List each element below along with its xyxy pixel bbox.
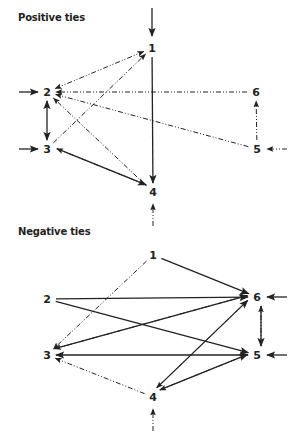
positive-node-6: 6 [252,86,260,99]
tie-network-diagram: 123456 123456 [0,0,305,447]
positive-node-2: 2 [43,86,51,99]
negative-node-4: 4 [149,391,157,404]
negative-edge-4-3 [55,358,144,393]
positive-edge-4-2 [54,98,147,186]
positive-node-4: 4 [149,186,157,199]
positive-edge-2-1 [55,51,143,88]
negative-node-2: 2 [43,293,51,306]
negative-node-3: 3 [43,349,51,362]
positive-node-3: 3 [43,143,51,156]
negative-edge-1-6 [161,258,248,293]
positive-ties-graph: 123456 [19,8,287,226]
negative-edge-2-6 [56,297,248,299]
positive-node-1: 1 [148,42,156,55]
positive-edge-3-1 [53,54,145,143]
negative-node-1: 1 [149,249,157,262]
positive-edge-1-4 [152,57,153,183]
negative-ties-graph: 123456 [43,249,287,431]
negative-node-6: 6 [253,291,261,304]
negative-node-5: 5 [253,349,261,362]
positive-node-5: 5 [253,143,261,156]
positive-edge-5-6 [256,101,257,140]
